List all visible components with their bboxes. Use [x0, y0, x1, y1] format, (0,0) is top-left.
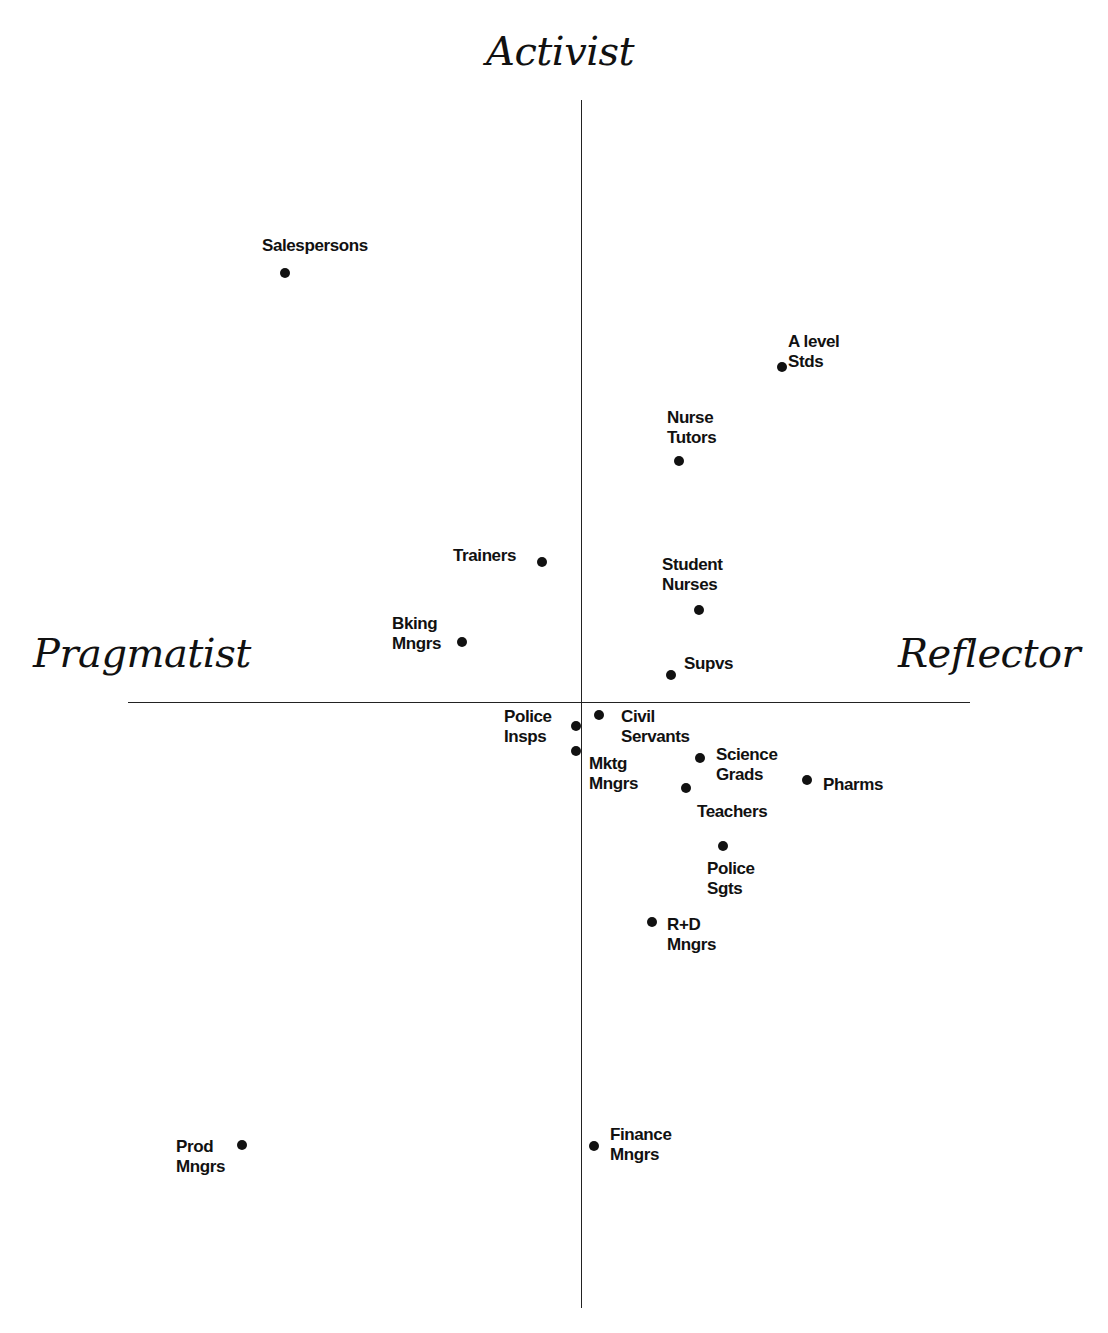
label-line: A level [788, 332, 839, 352]
data-point-marker [777, 362, 787, 372]
data-point-marker [718, 841, 728, 851]
label-line: Servants [621, 727, 690, 747]
data-point-label: R+DMngrs [667, 915, 716, 955]
data-point-label: Supvs [684, 654, 733, 674]
data-point-marker [694, 605, 704, 615]
data-point-label: Trainers [453, 546, 516, 566]
label-line: Supvs [684, 654, 733, 674]
label-line: Science [716, 745, 777, 765]
label-line: Mngrs [589, 774, 638, 794]
label-line: Police [707, 859, 755, 879]
data-point-label: A levelStds [788, 332, 839, 372]
data-point-marker [594, 710, 604, 720]
label-line: Mktg [589, 754, 638, 774]
data-point-marker [589, 1141, 599, 1151]
data-point-label: ProdMngrs [176, 1137, 225, 1177]
label-line: Police [504, 707, 552, 727]
label-line: Mngrs [667, 935, 716, 955]
data-point-label: Teachers [697, 802, 767, 822]
label-line: Grads [716, 765, 777, 785]
label-line: Tutors [667, 428, 716, 448]
data-point-label: PoliceInsps [504, 707, 552, 747]
label-line: Sgts [707, 879, 755, 899]
label-line: Salespersons [262, 236, 368, 256]
data-point-label: FinanceMngrs [610, 1125, 671, 1165]
data-point-label: MktgMngrs [589, 754, 638, 794]
data-point-marker [666, 670, 676, 680]
data-point-label: Pharms [823, 775, 883, 795]
data-point-marker [571, 721, 581, 731]
label-line: Bking [392, 614, 441, 634]
data-point-marker [237, 1140, 247, 1150]
label-line: Prod [176, 1137, 225, 1157]
label-line: Nurse [667, 408, 716, 428]
data-point-label: CivilServants [621, 707, 690, 747]
data-point-label: StudentNurses [662, 555, 722, 595]
data-point-marker [674, 456, 684, 466]
label-line: Insps [504, 727, 552, 747]
data-point-label: PoliceSgts [707, 859, 755, 899]
data-point-label: NurseTutors [667, 408, 716, 448]
label-line: Civil [621, 707, 690, 727]
label-line: Teachers [697, 802, 767, 822]
data-point-label: Salespersons [262, 236, 368, 256]
pragmatist-axis-title: Pragmatist [33, 630, 251, 676]
label-line: Mngrs [176, 1157, 225, 1177]
data-point-marker [537, 557, 547, 567]
data-point-label: BkingMngrs [392, 614, 441, 654]
data-point-marker [571, 746, 581, 756]
label-line: Nurses [662, 575, 722, 595]
label-line: Finance [610, 1125, 671, 1145]
data-point-label: ScienceGrads [716, 745, 777, 785]
data-point-marker [802, 775, 812, 785]
data-point-marker [280, 268, 290, 278]
data-point-marker [457, 637, 467, 647]
label-line: Mngrs [392, 634, 441, 654]
label-line: Stds [788, 352, 839, 372]
horizontal-axis-line [128, 702, 970, 703]
label-line: Student [662, 555, 722, 575]
reflector-axis-title: Reflector [898, 630, 1080, 676]
activist-axis-title: Activist [486, 28, 634, 74]
data-point-marker [695, 753, 705, 763]
label-line: Mngrs [610, 1145, 671, 1165]
label-line: Trainers [453, 546, 516, 566]
label-line: R+D [667, 915, 716, 935]
label-line: Pharms [823, 775, 883, 795]
data-point-marker [647, 917, 657, 927]
data-point-marker [681, 783, 691, 793]
vertical-axis-line [581, 100, 582, 1308]
